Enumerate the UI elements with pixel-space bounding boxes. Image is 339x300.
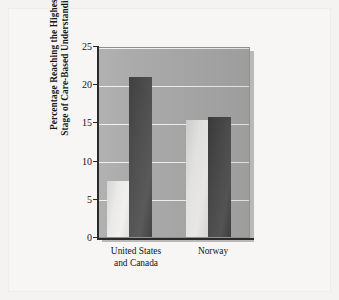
figure: Percentage Reaching the Highest Stage of…: [0, 0, 339, 300]
y-tick-mark-25: [93, 46, 97, 47]
bar-females-united-states-and-canada: [129, 77, 152, 237]
gridline-25: [99, 48, 249, 49]
x-axis-line: [97, 238, 254, 240]
bar-females-norway: [208, 117, 231, 237]
y-tick-label-25: 25: [70, 41, 92, 52]
y-tick-label-5: 5: [70, 194, 92, 205]
y-axis-title-line1: Percentage Reaching the Highest: [49, 0, 60, 130]
x-tick-label-line1: Norway: [177, 246, 249, 258]
x-tick-label-united-states-and-canada: United States and Canada: [91, 246, 181, 269]
bar-males-norway: [186, 120, 208, 237]
y-axis-line: [97, 46, 99, 239]
y-tick-label-15: 15: [70, 117, 92, 128]
x-tick-label-norway: Norway: [177, 246, 249, 258]
x-tick-label-line2: and Canada: [91, 258, 181, 270]
y-tick-mark-5: [93, 199, 97, 200]
y-tick-label-10: 10: [70, 156, 92, 167]
y-tick-mark-10: [93, 161, 97, 162]
bar-males-united-states-and-canada: [107, 181, 129, 237]
y-tick-mark-20: [93, 84, 97, 85]
y-tick-labels: 25 20 15 10 5 0: [68, 0, 92, 300]
y-tick-mark-15: [93, 122, 97, 123]
y-tick-label-0: 0: [70, 232, 92, 243]
x-tick-label-line1: United States: [91, 246, 181, 258]
gridline-20: [99, 86, 249, 87]
y-tick-mark-0: [93, 237, 97, 238]
y-tick-label-20: 20: [70, 79, 92, 90]
plot-area: Males Females: [98, 47, 250, 238]
